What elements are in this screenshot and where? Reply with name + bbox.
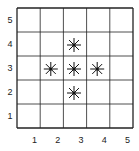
asterisk-icon [67,38,81,52]
y-axis-labels: 12345 [7,15,12,121]
x-axis-label: 5 [125,135,130,145]
markers [44,38,104,100]
x-axis-label: 2 [55,135,60,145]
y-axis-label: 2 [7,87,12,97]
y-axis-label: 4 [7,39,12,49]
y-axis-label: 3 [7,63,12,73]
x-axis-label: 4 [102,135,107,145]
x-axis-label: 3 [78,135,83,145]
y-axis-label: 1 [7,111,12,121]
asterisk-icon [44,62,58,76]
asterisk-icon [67,86,81,100]
asterisk-icon [90,62,104,76]
y-axis-label: 5 [7,15,12,25]
grid-diagram: 12345 12345 [0,0,139,151]
x-axis-labels: 12345 [32,135,130,145]
x-axis-label: 1 [32,135,37,145]
asterisk-icon [67,62,81,76]
